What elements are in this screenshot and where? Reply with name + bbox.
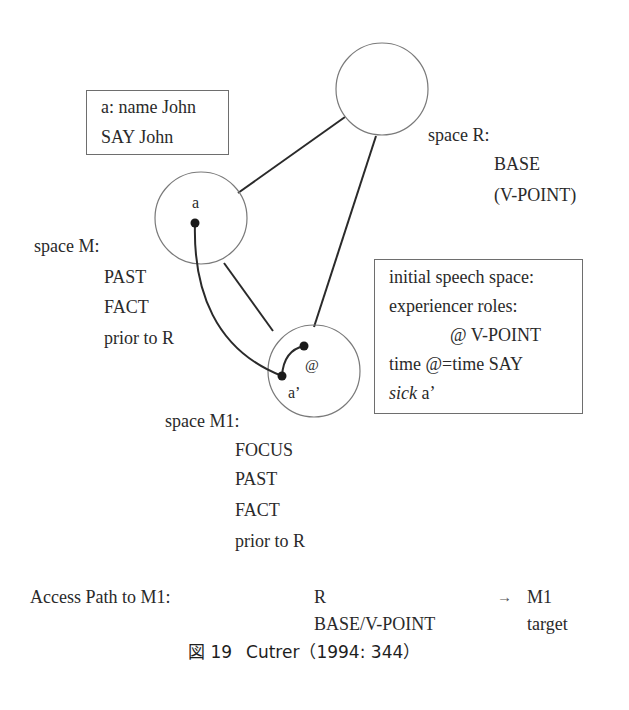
name-box-line-2: SAY John [101, 122, 173, 152]
space-m-prop-past: PAST [104, 262, 146, 292]
viewpoint-at-dot [300, 342, 309, 351]
element-a-label: a [192, 193, 199, 213]
space-m1-prop-fact: FACT [235, 495, 280, 525]
access-path-from-role: BASE/V-POINT [314, 609, 435, 639]
space-r-circle [336, 43, 428, 135]
space-m1-label: space M1: [165, 406, 239, 436]
speech-box-line-2: experiencer roles: [389, 291, 517, 321]
link-m-to-r [238, 117, 345, 193]
name-box: a: name John SAY John [86, 90, 229, 155]
viewpoint-at-label: @ [305, 356, 319, 374]
access-path-to: M1 [527, 582, 552, 612]
element-a-prime-dot [278, 372, 287, 381]
access-path-arrow: → [497, 582, 512, 612]
element-a-prime-label: a’ [288, 383, 300, 403]
speech-box-line-5: sick a’ [389, 378, 435, 408]
initial-speech-space-box: initial speech space: experiencer roles:… [374, 259, 583, 414]
connector-a-to-a-prime [195, 223, 282, 376]
speech-box-line-4: time @=time SAY [389, 349, 523, 379]
access-path-label: Access Path to M1: [30, 582, 170, 612]
space-m-label: space M: [34, 231, 99, 261]
space-m1-prop-focus: FOCUS [235, 435, 293, 465]
element-a-dot [191, 219, 200, 228]
link-r-to-m1 [314, 136, 376, 327]
figure-label: 図 19 [188, 642, 232, 662]
access-path-from: R [314, 582, 326, 612]
space-r-prop-vpoint: (V-POINT) [494, 180, 576, 210]
space-r-prop-base: BASE [494, 149, 540, 179]
access-path-to-role: target [527, 609, 568, 639]
speech-box-line-3: @ V-POINT [450, 320, 541, 350]
connector-a-prime-to-at [282, 346, 304, 376]
name-box-line-1: a: name John [101, 92, 196, 122]
space-m-prop-fact: FACT [104, 292, 149, 322]
space-r-label: space R: [428, 120, 489, 150]
space-m1-prop-past: PAST [235, 464, 277, 494]
space-m-prop-prior: prior to R [104, 323, 174, 353]
figure-citation: Cutrer（1994: 344） [246, 642, 420, 662]
space-m-circle [155, 172, 247, 264]
speech-box-sick: sick [389, 383, 417, 403]
figure-caption: 図 19Cutrer（1994: 344） [188, 638, 420, 663]
speech-box-line-1: initial speech space: [389, 262, 534, 292]
link-m-to-m1 [224, 263, 273, 331]
speech-box-a-prime: a’ [417, 383, 435, 403]
space-m1-prop-prior: prior to R [235, 526, 305, 556]
